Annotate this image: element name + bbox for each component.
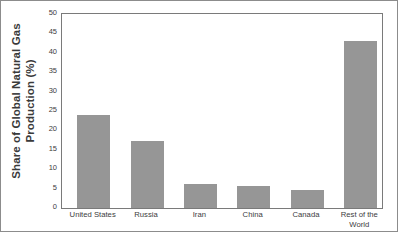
y-tick-label: 35 (41, 67, 57, 75)
x-tick-label-line: Canada (279, 210, 332, 220)
x-tick-label-line: Russia (119, 210, 172, 220)
bar-chart-figure: Share of Global Natural Gas Production (… (0, 0, 398, 232)
x-tick-label-line: China (226, 210, 279, 220)
y-axis-title-line-2: Production (%) (23, 23, 37, 178)
y-tick-label: 10 (41, 164, 57, 172)
x-tick-label-line: World (333, 220, 386, 230)
x-tick-label: Canada (279, 210, 332, 220)
plot-area (61, 13, 383, 209)
x-tick-label-line: Rest of the (333, 210, 386, 220)
bar (291, 190, 324, 208)
y-tick-label: 20 (41, 125, 57, 133)
x-tick-label-line: Iran (173, 210, 226, 220)
x-tick-label: United States (66, 210, 119, 220)
x-tick-label-line: United States (66, 210, 119, 220)
y-axis-tick-labels: 05101520253035404550 (37, 13, 57, 207)
bar (344, 41, 377, 208)
bar (184, 184, 217, 208)
y-tick-label: 40 (41, 48, 57, 56)
y-tick-label: 50 (41, 9, 57, 17)
bars-layer (62, 14, 382, 208)
y-tick-label: 25 (41, 106, 57, 114)
x-tick-label: China (226, 210, 279, 220)
bar (237, 186, 270, 208)
y-tick-label: 0 (41, 203, 57, 211)
y-tick-label: 45 (41, 28, 57, 36)
y-axis-title-line-1: Share of Global Natural Gas (10, 23, 22, 178)
x-tick-label: Iran (173, 210, 226, 220)
bar (131, 141, 164, 208)
bar (77, 115, 110, 208)
x-tick-label: Rest of theWorld (333, 210, 386, 229)
y-tick-label: 5 (41, 184, 57, 192)
y-tick-label: 30 (41, 87, 57, 95)
x-axis-tick-labels: United StatesRussiaIranChinaCanadaRest o… (61, 210, 383, 232)
x-tick-label: Russia (119, 210, 172, 220)
y-tick-label: 15 (41, 145, 57, 153)
